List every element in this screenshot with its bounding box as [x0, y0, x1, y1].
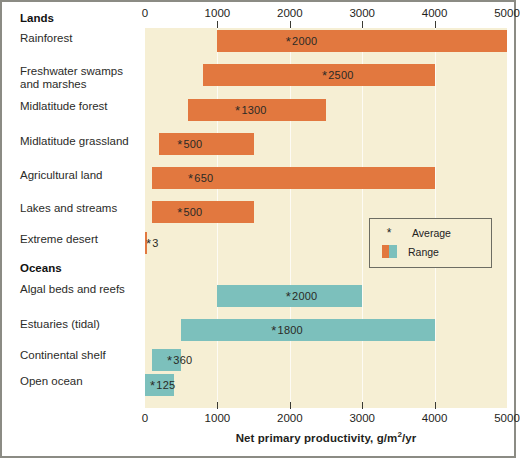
axis-tick [217, 402, 218, 409]
axis-tick [435, 21, 436, 28]
axis-tick-label: 4000 [422, 412, 448, 424]
bar-average-label: *500 [177, 133, 202, 155]
axis-tick-label: 2000 [277, 412, 303, 424]
bar-range [159, 133, 253, 155]
category-label-midlatitude-forest: Midlatitude forest [20, 100, 108, 113]
average-value: 1300 [241, 104, 266, 116]
legend-entry-average: * Average [378, 226, 451, 240]
bar-average-label: *360 [167, 349, 192, 371]
category-label-text: Lands [20, 12, 54, 24]
bar-average-label: *2500 [322, 64, 354, 86]
category-label-agricultural-land: Agricultural land [20, 169, 102, 182]
bar-average-label: *125 [150, 374, 175, 396]
category-label-text: Extreme desert [20, 233, 98, 245]
axis-tick [290, 402, 291, 409]
asterisk-icon: * [167, 353, 172, 368]
average-value: 1800 [278, 324, 303, 336]
axis-tick [362, 402, 363, 409]
bar-average-label: *1800 [271, 319, 303, 341]
asterisk-icon: * [150, 378, 155, 393]
chart-legend: * Average Range [369, 218, 492, 268]
category-label-open-ocean: Open ocean [20, 375, 83, 388]
range-swatch-icon [382, 245, 397, 258]
average-value: 360 [173, 354, 192, 366]
average-value: 2000 [292, 290, 317, 302]
axis-title-post: /yr [402, 432, 416, 444]
legend-entry-range: Range [378, 245, 439, 258]
group-header-lands: Lands [20, 12, 54, 25]
asterisk-icon: * [286, 34, 291, 49]
asterisk-icon: * [378, 226, 400, 240]
bar-average-label: *650 [188, 167, 213, 189]
axis-title-pre: Net primary productivity, g/m [236, 432, 398, 444]
category-label-text: Freshwater swamps [20, 65, 123, 77]
asterisk-icon: * [146, 236, 151, 251]
category-label-text: Lakes and streams [20, 202, 117, 214]
x-axis-top: 010002000300040005000 [145, 8, 507, 28]
bar-average-label: *500 [177, 201, 202, 223]
category-label-text-line2: and marshes [20, 78, 123, 91]
axis-tick-label: 4000 [422, 7, 448, 19]
category-label-text: Algal beds and reefs [20, 283, 125, 295]
average-value: 2000 [292, 35, 317, 47]
bar-range [203, 64, 435, 86]
axis-tick-label: 3000 [349, 412, 375, 424]
asterisk-icon: * [177, 205, 182, 220]
category-label-text: Rainforest [20, 32, 72, 44]
x-axis-bottom: 010002000300040005000 [145, 402, 507, 422]
bar-range [152, 201, 253, 223]
asterisk-icon: * [286, 289, 291, 304]
legend-label-range: Range [408, 246, 439, 258]
category-label-column: LandsOceansRainforestFreshwater swampsan… [12, 2, 144, 458]
category-label-algal-beds-and-reefs: Algal beds and reefs [20, 283, 125, 296]
bar-average-label: *2000 [286, 285, 318, 307]
axis-tick-label: 5000 [494, 7, 520, 19]
group-header-oceans: Oceans [20, 262, 62, 275]
category-label-midlatitude-grassland: Midlatitude grassland [20, 135, 129, 148]
category-label-text: Agricultural land [20, 169, 102, 181]
category-label-lakes-and-streams: Lakes and streams [20, 202, 117, 215]
asterisk-icon: * [188, 171, 193, 186]
asterisk-icon: * [322, 68, 327, 83]
axis-tick-label: 0 [142, 412, 148, 424]
axis-tick-label: 1000 [205, 7, 231, 19]
axis-tick-label: 0 [142, 7, 148, 19]
axis-tick [362, 21, 363, 28]
axis-tick-label: 5000 [494, 412, 520, 424]
axis-tick-label: 1000 [205, 412, 231, 424]
bar-average-label: *1300 [235, 99, 267, 121]
asterisk-icon: * [271, 323, 276, 338]
average-value: 3 [152, 237, 158, 249]
category-label-estuaries-tidal: Estuaries (tidal) [20, 318, 100, 331]
bar-average-label: *2000 [286, 30, 318, 52]
category-label-text: Midlatitude grassland [20, 135, 129, 147]
category-label-text: Open ocean [20, 375, 83, 387]
bar-range [181, 319, 434, 341]
category-label-freshwater-swamps: Freshwater swampsand marshes [20, 65, 123, 91]
category-label-text: Midlatitude forest [20, 100, 108, 112]
category-label-extreme-desert: Extreme desert [20, 233, 98, 246]
asterisk-icon: * [235, 103, 240, 118]
average-value: 650 [194, 172, 213, 184]
average-value: 500 [183, 138, 202, 150]
category-label-text: Estuaries (tidal) [20, 318, 100, 330]
axis-tick [217, 21, 218, 28]
x-axis-title: Net primary productivity, g/m2/yr [145, 430, 507, 444]
average-value: 500 [183, 206, 202, 218]
asterisk-icon: * [177, 137, 182, 152]
legend-label-average: Average [412, 227, 451, 239]
category-label-text: Continental shelf [20, 349, 106, 361]
category-label-rainforest: Rainforest [20, 32, 72, 45]
axis-tick-label: 2000 [277, 7, 303, 19]
category-label-text: Oceans [20, 262, 62, 274]
bar-average-label: *3 [146, 232, 159, 254]
axis-tick [290, 21, 291, 28]
average-value: 125 [156, 379, 175, 391]
bar-range [217, 30, 507, 52]
category-label-continental-shelf: Continental shelf [20, 349, 106, 362]
average-value: 2500 [328, 69, 353, 81]
axis-tick-label: 3000 [349, 7, 375, 19]
axis-tick [435, 402, 436, 409]
